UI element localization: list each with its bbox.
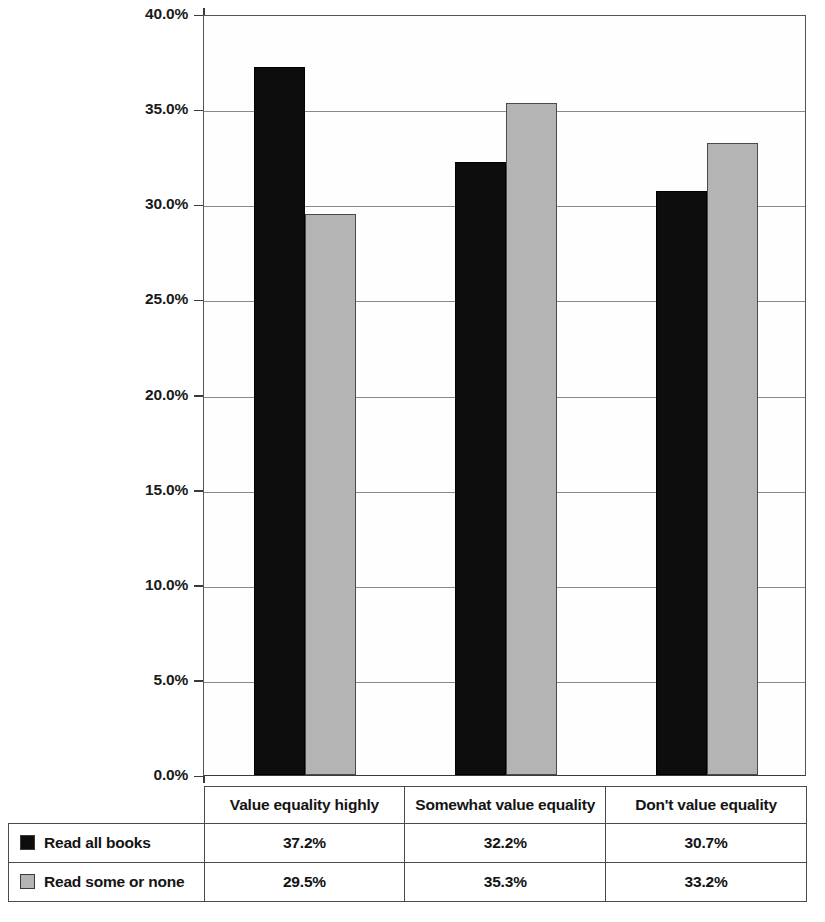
plot-area (203, 15, 806, 776)
table-header-row: Value equality highlySomewhat value equa… (9, 787, 807, 824)
y-axis-tick-mark (194, 395, 203, 397)
y-axis-tick-label: 35.0% (120, 100, 188, 118)
table-value-cell-r1-c2: 33.2% (606, 863, 807, 902)
y-axis-tick-label: 10.0% (120, 576, 188, 594)
y-axis-tick-label: 20.0% (120, 386, 188, 404)
table-value-cell-r0-c0: 37.2% (204, 824, 405, 863)
bar-0-1 (455, 162, 506, 775)
legend-label-0: Read all books (44, 834, 151, 852)
legend-cell-0: Read all books (9, 824, 205, 863)
y-axis-tick-label: 5.0% (120, 671, 188, 689)
bar-1-0 (305, 214, 356, 775)
legend-label-1: Read some or none (44, 873, 184, 891)
bar-1-1 (506, 103, 557, 775)
y-axis-tick-label: 15.0% (120, 481, 188, 499)
table-header-cell-0: Value equality highly (204, 787, 405, 824)
y-axis-tick-mark (194, 110, 203, 112)
table-value-cell-r0-c1: 32.2% (405, 824, 606, 863)
table-row: Read all books37.2%32.2%30.7% (9, 824, 807, 863)
data-table: Value equality highlySomewhat value equa… (8, 786, 807, 902)
y-axis-tick-mark (194, 15, 203, 17)
table-value-cell-r1-c0: 29.5% (204, 863, 405, 902)
table-value-cell-r0-c2: 30.7% (606, 824, 807, 863)
table-header-cell-2: Don't value equality (606, 787, 807, 824)
black-square-swatch (20, 835, 35, 850)
table-header-spacer (9, 787, 205, 824)
y-axis-tick-mark (194, 776, 203, 778)
y-axis-tick-mark (194, 490, 203, 492)
table-header-cell-1: Somewhat value equality (405, 787, 606, 824)
bar-chart-figure: 40.0%35.0%30.0%25.0%20.0%15.0%10.0%5.0%0… (0, 0, 825, 922)
bar-0-2 (656, 191, 707, 775)
y-axis-tick-mark (194, 300, 203, 302)
y-axis-tick-mark (194, 585, 203, 587)
y-axis-tick-mark (194, 205, 203, 207)
y-axis-tick-label: 25.0% (120, 290, 188, 308)
y-axis-tick-mark (194, 680, 203, 682)
legend-cell-1: Read some or none (9, 863, 205, 902)
y-axis-tick-label: 40.0% (120, 5, 188, 23)
bar-1-2 (707, 143, 758, 775)
bar-0-0 (254, 67, 305, 775)
table-row: Read some or none29.5%35.3%33.2% (9, 863, 807, 902)
y-axis-tick-label: 30.0% (120, 195, 188, 213)
gray-square-swatch (20, 874, 35, 889)
table-value-cell-r1-c1: 35.3% (405, 863, 606, 902)
y-axis-tick-label: 0.0% (120, 766, 188, 784)
